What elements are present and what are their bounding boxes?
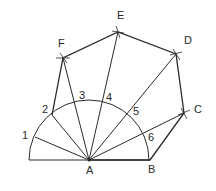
vertex-label-f: F — [58, 37, 65, 49]
radial-line-ae — [89, 32, 118, 160]
division-label-4: 4 — [106, 91, 112, 103]
vertex-label-a: A — [86, 164, 94, 176]
division-label-1: 1 — [22, 129, 28, 141]
diagram-canvas: A B C D E F 1 2 3 4 5 6 — [0, 0, 216, 191]
division-label-6: 6 — [148, 131, 154, 143]
vertex-label-d: D — [184, 34, 192, 46]
vertex-label-c: C — [194, 103, 202, 115]
radial-line-ac — [89, 113, 184, 160]
heptagon-construction-diagram: A B C D E F 1 2 3 4 5 6 — [0, 0, 216, 191]
division-label-5: 5 — [133, 105, 139, 117]
radial-line-1 — [35, 137, 89, 160]
division-label-3: 3 — [79, 89, 85, 101]
heptagon-outline — [52, 32, 184, 160]
vertex-label-e: E — [117, 9, 124, 21]
vertex-label-b: B — [148, 163, 155, 175]
construction-ticks — [56, 26, 190, 119]
division-label-2: 2 — [42, 103, 48, 115]
center-point-a — [88, 159, 91, 162]
